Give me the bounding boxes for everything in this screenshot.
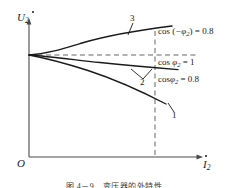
curve-3-number-label: 3 <box>130 14 135 23</box>
curve-2-path <box>29 55 178 70</box>
leader-line-curve-3 <box>128 23 133 35</box>
legend-curve-1-suffix: = 0.8 <box>178 74 199 84</box>
y-axis-label-subscript: 2 <box>25 16 29 25</box>
y-axis-label-symbol: U <box>17 11 25 23</box>
legend-curve-3-phi: −φ <box>175 26 186 36</box>
y-axis-label: U2 <box>17 12 29 24</box>
axes-group <box>27 18 203 159</box>
curves-group <box>29 26 178 104</box>
legend-curve-2-prefix: cos <box>158 57 172 67</box>
legend-curve-3-suffix: ) = 0.8 <box>190 26 214 36</box>
legend-label-curve-3: cos (−φ2) = 0.8 <box>158 27 213 37</box>
y-axis-phasor-dot-icon <box>32 11 34 13</box>
legend-curve-2-suffix: = 1 <box>180 57 194 67</box>
figure-caption: 图 4－9 变压器的外特性 <box>0 180 228 188</box>
curve-1-number-label: 1 <box>172 111 177 120</box>
origin-label: O <box>17 158 25 169</box>
legend-label-curve-2: cos φ2 = 1 <box>158 58 195 68</box>
legend-curve-3-prefix: cos ( <box>158 26 175 36</box>
x-axis-phasor-dot-icon <box>205 155 207 157</box>
x-axis-label-subscript: 2 <box>207 163 211 172</box>
legend-label-curve-1: cosφ2 = 0.8 <box>158 75 199 85</box>
x-axis-label: I2 <box>203 159 210 171</box>
curve-3-path <box>29 26 172 55</box>
guides-group <box>29 31 196 157</box>
figure-container: U2 I2 O 3 2 1 cos (−φ2) = 0.8 cos φ2 = 1… <box>0 0 228 188</box>
legend-curve-1-prefix: cos <box>158 74 170 84</box>
curve-2-number-label: 2 <box>140 78 145 87</box>
